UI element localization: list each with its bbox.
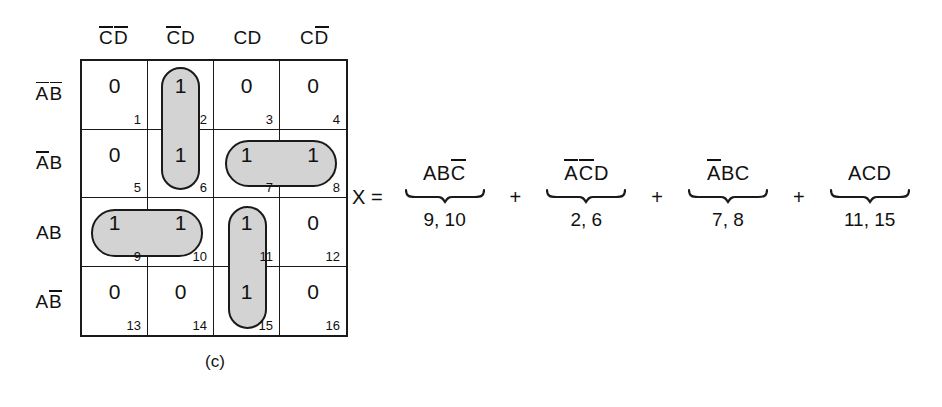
term-minterm-list: 11, 15 xyxy=(844,207,895,233)
literal: B xyxy=(49,222,62,244)
literal: A xyxy=(848,162,862,184)
kmap-cell-value: 1 xyxy=(280,140,346,170)
kmap-cell-15[interactable]: 115 xyxy=(214,267,280,336)
kmap-cell-index: 13 xyxy=(127,318,141,333)
term-abc-bar: ABC9, 10 xyxy=(397,160,493,233)
kmap-cell-2[interactable]: 12 xyxy=(148,61,214,130)
literal: B xyxy=(721,162,735,184)
overlined-literal: A xyxy=(36,152,50,174)
kmap-cell-value: 0 xyxy=(82,71,147,101)
overlined-literal: A xyxy=(564,160,579,186)
kmap-cell-value: 1 xyxy=(148,208,213,238)
kmap-cell-3[interactable]: 03 xyxy=(214,61,280,130)
kmap-cell-index: 1 xyxy=(134,112,141,127)
kmap-cell-value: 0 xyxy=(148,277,213,307)
kmap-cell-index: 5 xyxy=(134,180,141,195)
kmap-cell-value: 0 xyxy=(280,277,346,307)
term-minterm-list: 7, 8 xyxy=(712,207,744,233)
kmap-cell-index: 10 xyxy=(193,249,207,264)
kmap-cell-11[interactable]: 111 xyxy=(214,198,280,267)
overlined-literal: C xyxy=(578,160,594,186)
kmap-cell-index: 15 xyxy=(259,318,273,333)
row-header-a-b: AB xyxy=(20,198,78,268)
kmap-cell-index: 2 xyxy=(200,112,207,127)
kmap-cell-value: 1 xyxy=(214,277,279,307)
underbrace-icon xyxy=(405,188,485,204)
kmap-cell-index: 12 xyxy=(326,249,340,264)
kmap-cell-value: 1 xyxy=(82,208,147,238)
overlined-literal: C xyxy=(98,27,113,49)
kmap-cell-index: 11 xyxy=(260,249,274,264)
underbrace-icon xyxy=(546,188,626,204)
literal: A xyxy=(36,222,49,244)
overlined-literal: A xyxy=(35,83,49,105)
literal: D xyxy=(248,27,262,49)
column-header-row: CDCDCDCD xyxy=(80,22,348,54)
equation-plus-operator: + xyxy=(634,182,680,212)
figure-caption: (c) xyxy=(0,352,430,372)
equation-plus-operator: + xyxy=(493,182,539,212)
literal: C xyxy=(233,27,247,49)
row-header-column: ABABABAB xyxy=(20,59,78,337)
overlined-literal: A xyxy=(706,160,721,186)
column-header-c-bar-d-bar: CD xyxy=(80,22,147,54)
kmap-cell-value: 1 xyxy=(148,71,213,101)
literal: D xyxy=(181,27,195,49)
term-expression: ACD xyxy=(564,160,609,186)
kmap-cell-5[interactable]: 05 xyxy=(82,130,148,199)
overlined-literal: B xyxy=(49,83,63,105)
term-expression: ABC xyxy=(706,160,749,186)
term-minterm-list: 2, 6 xyxy=(570,207,602,233)
kmap-cell-14[interactable]: 014 xyxy=(148,267,214,336)
overlined-literal: D xyxy=(114,27,129,49)
kmap-cell-value: 0 xyxy=(82,140,147,170)
kmap-cell-value: 0 xyxy=(280,208,346,238)
term-expression: ACD xyxy=(848,160,891,186)
term-a-bar-bc: ABC7, 8 xyxy=(680,160,776,233)
kmap-cell-8[interactable]: 18 xyxy=(280,130,346,199)
overlined-literal: D xyxy=(314,27,329,49)
literal: C xyxy=(300,27,314,49)
karnaugh-map-grid: 011203040516171819110111012013014115016 xyxy=(80,59,348,337)
overlined-literal: B xyxy=(49,291,63,313)
kmap-cell-value: 1 xyxy=(214,140,279,170)
kmap-cell-index: 8 xyxy=(333,180,340,195)
literal: B xyxy=(437,162,451,184)
kmap-cell-9[interactable]: 19 xyxy=(82,198,148,267)
underbrace-icon xyxy=(688,188,768,204)
kmap-cell-index: 6 xyxy=(200,180,207,195)
kmap-cell-value: 0 xyxy=(280,71,346,101)
kmap-cell-value: 0 xyxy=(82,277,147,307)
overlined-literal: C xyxy=(166,27,181,49)
term-acd: ACD11, 15 xyxy=(822,160,918,233)
kmap-cell-12[interactable]: 012 xyxy=(280,198,346,267)
row-header-a-bar-b-bar: AB xyxy=(20,59,78,129)
term-minterm-list: 9, 10 xyxy=(423,207,465,233)
kmap-cell-index: 3 xyxy=(266,112,273,127)
overlined-literal: C xyxy=(450,160,466,186)
literal: C xyxy=(862,162,877,184)
literal: D xyxy=(876,162,891,184)
kmap-cell-7[interactable]: 17 xyxy=(214,130,280,199)
term-a-bar-c-bar-d: ACD2, 6 xyxy=(538,160,634,233)
row-header-a-bar-b: AB xyxy=(20,129,78,199)
equation-left-hand-side: X = xyxy=(352,182,383,212)
boolean-expression: X = ABC9, 10+ACD2, 6+ABC7, 8+ACD11, 15 xyxy=(352,160,918,255)
literal: A xyxy=(36,291,49,313)
kmap-cell-value: 0 xyxy=(214,71,279,101)
kmap-cell-16[interactable]: 016 xyxy=(280,267,346,336)
column-header-c-d-bar: CD xyxy=(281,22,348,54)
equation-plus-operator: + xyxy=(776,182,822,212)
kmap-cell-value: 1 xyxy=(148,140,213,170)
literal: D xyxy=(594,162,609,184)
kmap-cell-1[interactable]: 01 xyxy=(82,61,148,130)
kmap-cell-6[interactable]: 16 xyxy=(148,130,214,199)
literal: C xyxy=(735,162,750,184)
kmap-cell-index: 14 xyxy=(193,318,207,333)
kmap-cell-10[interactable]: 110 xyxy=(148,198,214,267)
column-header-c-bar-d: CD xyxy=(147,22,214,54)
kmap-cell-13[interactable]: 013 xyxy=(82,267,148,336)
literal: B xyxy=(50,152,63,174)
kmap-cell-4[interactable]: 04 xyxy=(280,61,346,130)
kmap-cell-index: 16 xyxy=(326,318,340,333)
